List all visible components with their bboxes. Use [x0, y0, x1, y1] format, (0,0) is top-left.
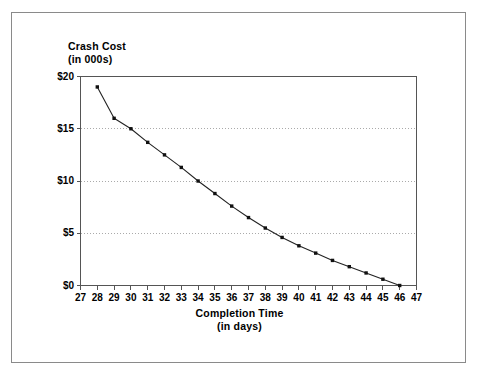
- x-axis-title-line2: (in days): [0, 320, 479, 333]
- y-tick-label: $20: [28, 71, 74, 82]
- x-axis-title: Completion Time (in days): [0, 307, 479, 332]
- y-axis-title-line1: Crash Cost: [68, 40, 126, 53]
- x-tick-label: 47: [405, 292, 429, 303]
- x-axis-title-line1: Completion Time: [0, 307, 479, 320]
- y-axis-title-line2: (in 000s): [68, 53, 126, 66]
- y-tick-label: $5: [28, 227, 74, 238]
- y-tick-label: $15: [28, 123, 74, 134]
- y-axis-title: Crash Cost (in 000s): [68, 40, 126, 65]
- y-tick-label: $0: [28, 280, 74, 291]
- crash-cost-chart: Crash Cost (in 000s) Completion Time (in…: [0, 0, 479, 378]
- y-tick-label: $10: [28, 175, 74, 186]
